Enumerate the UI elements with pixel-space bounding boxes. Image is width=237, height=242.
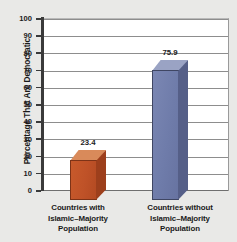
bar-countries-without-islamic-majority[interactable] — [152, 60, 188, 200]
bar-value-label-2: 75.9 — [144, 48, 196, 57]
y-tick-label-30: 30 — [2, 135, 32, 144]
gridline-80 — [42, 53, 228, 54]
bar-front-face — [70, 160, 97, 200]
bar-chart-figure: Percentage That Are Democratic 100 90 80… — [0, 0, 237, 242]
y-tick-mark-0 — [36, 190, 41, 192]
gridline-50 — [42, 105, 228, 106]
category-label-2: Countries without Islamic–Majority Popul… — [124, 203, 236, 235]
category-label-1: Countries with Islamic–Majority Populati… — [22, 203, 134, 235]
y-tick-label-40: 40 — [2, 117, 32, 126]
gridline-90 — [42, 36, 228, 37]
y-tick-label-10: 10 — [2, 169, 32, 178]
y-axis-spine — [41, 17, 44, 191]
y-tick-label-70: 70 — [2, 66, 32, 75]
gridline-60 — [42, 88, 228, 89]
gridline-100 — [42, 19, 228, 20]
bar-side-face — [178, 60, 188, 200]
bar-countries-with-islamic-majority[interactable] — [70, 150, 106, 200]
gridline-40 — [42, 122, 228, 123]
y-tick-mark-50 — [36, 104, 41, 106]
category-label-1-line-3: Population — [22, 224, 134, 235]
y-tick-label-0: 0 — [2, 186, 32, 195]
category-label-2-line-3: Population — [124, 224, 236, 235]
y-tick-mark-60 — [36, 87, 41, 89]
category-label-1-line-1: Countries with — [22, 203, 134, 214]
y-tick-mark-70 — [36, 70, 41, 72]
y-tick-label-90: 90 — [2, 31, 32, 40]
y-tick-mark-10 — [36, 173, 41, 175]
y-tick-label-20: 20 — [2, 152, 32, 161]
y-tick-mark-40 — [36, 121, 41, 123]
y-tick-label-50: 50 — [2, 100, 32, 109]
y-tick-mark-90 — [36, 35, 41, 37]
gridline-70 — [42, 71, 228, 72]
bar-front-face — [152, 70, 179, 200]
y-tick-label-80: 80 — [2, 49, 32, 58]
y-tick-mark-80 — [36, 52, 41, 54]
y-tick-mark-100 — [36, 18, 41, 20]
bar-value-label-1: 23.4 — [62, 138, 114, 147]
y-tick-mark-30 — [36, 138, 41, 140]
category-label-2-line-2: Islamic–Majority — [124, 214, 236, 225]
y-tick-mark-20 — [36, 156, 41, 158]
category-label-2-line-1: Countries without — [124, 203, 236, 214]
category-label-1-line-2: Islamic–Majority — [22, 214, 134, 225]
y-tick-label-100: 100 — [2, 14, 32, 23]
y-tick-label-60: 60 — [2, 83, 32, 92]
